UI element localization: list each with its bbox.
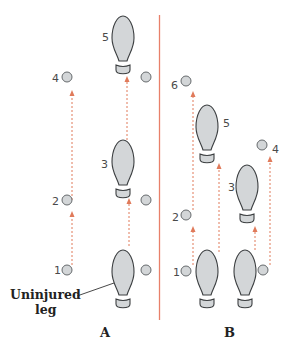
panel-label-a: A <box>99 325 111 340</box>
footprint-a-3 <box>112 140 134 198</box>
crutch-tip-b-2 <box>181 210 191 220</box>
footprint-b-3 <box>236 165 258 223</box>
arrow-b-right <box>268 156 273 265</box>
panel-b: 1 2 3 4 5 6 B <box>171 76 279 340</box>
arrow-a-left-lower <box>70 211 75 265</box>
crutch-tip-a-2 <box>62 195 72 205</box>
crutch-gait-diagram: 1 2 3 4 5 Uninjured leg A <box>0 0 292 350</box>
footprint-b-left <box>196 250 218 308</box>
step-number-b-4: 4 <box>272 143 279 156</box>
crutch-tip-a-right-4 <box>141 72 151 82</box>
annotation-leader-line <box>77 283 114 296</box>
crutch-tip-b-4 <box>257 140 267 150</box>
panel-label-b: B <box>224 325 235 340</box>
arrow-a-center-lower <box>127 198 132 246</box>
crutch-tip-a-1 <box>62 265 72 275</box>
crutch-tip-a-4 <box>62 72 72 82</box>
step-number-a-4: 4 <box>52 72 59 85</box>
crutch-tip-a-right-1 <box>141 265 151 275</box>
arrow-b-left-upper <box>191 91 196 210</box>
step-number-b-6: 6 <box>171 79 178 92</box>
step-number-b-1: 1 <box>173 266 180 279</box>
footprint-a-5 <box>112 16 134 74</box>
arrow-a-left-upper <box>70 90 75 200</box>
step-number-b-5: 5 <box>223 117 230 130</box>
step-number-a-2: 2 <box>52 195 59 208</box>
arrow-b-mid-left <box>217 163 222 252</box>
annotation-uninjured: Uninjured <box>10 287 81 302</box>
footprint-a-uninjured <box>112 250 134 308</box>
arrow-b-left-lower <box>191 226 196 265</box>
crutch-tip-b-6 <box>181 76 191 86</box>
step-number-b-3: 3 <box>228 181 235 194</box>
panel-a: 1 2 3 4 5 Uninjured leg A <box>10 16 151 340</box>
step-number-b-2: 2 <box>172 211 179 224</box>
step-number-a-3: 3 <box>101 158 108 171</box>
arrow-a-center-upper <box>125 76 130 140</box>
arrow-b-mid-right <box>253 226 258 250</box>
crutch-tip-b-right <box>258 265 268 275</box>
crutch-tip-a-right-2 <box>141 195 151 205</box>
crutch-tip-b-1 <box>181 266 191 276</box>
step-number-a-5: 5 <box>102 31 109 44</box>
annotation-leg: leg <box>35 302 57 317</box>
footprint-b-right <box>234 250 256 308</box>
step-number-a-1: 1 <box>54 264 61 277</box>
footprint-b-5 <box>196 105 218 163</box>
